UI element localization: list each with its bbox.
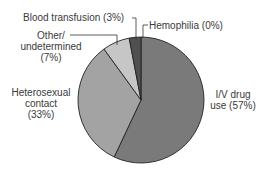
label-other-line2: undetermined (20, 41, 82, 52)
label-heterosexual: Heterosexual contact (33%) (8, 87, 74, 120)
label-hemophilia: Hemophilia (0%) (149, 20, 223, 31)
label-hetero-line2: contact (8, 98, 74, 109)
label-hetero-line1: Heterosexual (8, 87, 74, 98)
label-iv-drug: I/V drug use (57%) (208, 89, 258, 111)
label-other-line3: (7%) (20, 52, 82, 63)
label-iv-line1: I/V drug (208, 89, 258, 100)
leader-blood-transfusion (132, 18, 136, 40)
label-blood-transfusion: Blood transfusion (3%) (23, 12, 124, 23)
label-other-line1: Other/ (20, 30, 82, 41)
label-hetero-line3: (33%) (8, 109, 74, 120)
label-iv-line2: use (57%) (208, 100, 258, 111)
leader-hemophilia (143, 25, 148, 38)
pie-slices (78, 37, 204, 163)
label-other: Other/ undetermined (7%) (20, 30, 82, 63)
